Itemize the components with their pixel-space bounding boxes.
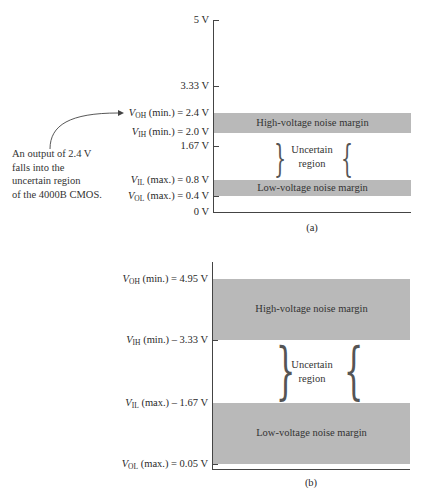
high-band-label-b: High-voltage noise margin bbox=[213, 303, 410, 314]
caption-a: (a) bbox=[292, 222, 332, 233]
diagram-b-x-axis bbox=[212, 469, 410, 470]
label-vol-max-b: VOL (max.) = 0.05 V bbox=[122, 458, 208, 473]
tick-vol-b bbox=[212, 464, 218, 465]
caption-b: (b) bbox=[291, 477, 331, 488]
uncertain-region-label-a: Uncertain region bbox=[282, 143, 342, 171]
low-band-label-b: Low-voltage noise margin bbox=[213, 427, 410, 438]
high-voltage-noise-margin-band-b: High-voltage noise margin bbox=[213, 279, 410, 340]
uncertain-region-label-b: Uncertain region bbox=[282, 358, 342, 386]
tick-vih-b bbox=[212, 340, 218, 341]
high-voltage-noise-margin-band-a: High-voltage noise margin bbox=[214, 113, 411, 133]
left-brace-icon-a: { bbox=[341, 139, 353, 177]
low-band-label-a: Low-voltage noise margin bbox=[214, 182, 411, 193]
tick-5v bbox=[213, 20, 219, 21]
label-vil-max-b: VIL (max.) – 1.67 V bbox=[125, 397, 208, 412]
tick-3-33v bbox=[213, 86, 219, 87]
tick-1-67v bbox=[213, 146, 219, 147]
high-band-label-a: High-voltage noise margin bbox=[214, 117, 411, 128]
tick-vol bbox=[213, 196, 219, 197]
low-voltage-noise-margin-band-b: Low-voltage noise margin bbox=[213, 403, 410, 464]
label-vih-min-b: VIH (min.) – 3.33 V bbox=[126, 334, 208, 349]
low-voltage-noise-margin-band-a: Low-voltage noise margin bbox=[214, 180, 411, 196]
diagram-a-x-axis bbox=[213, 212, 411, 213]
left-brace-icon-b: { bbox=[344, 340, 364, 402]
label-voh-min-b: VOH (min.) = 4.95 V bbox=[123, 273, 208, 288]
